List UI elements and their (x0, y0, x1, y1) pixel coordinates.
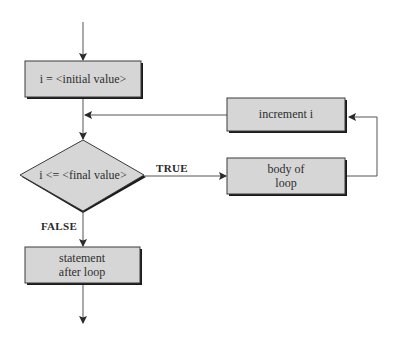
after-loop-label-line1: statement (59, 251, 106, 265)
body-to-increment-arrow (347, 117, 377, 176)
flowchart: i = <initial value> i <= <final value> T… (0, 0, 395, 341)
body-label-line1: body of (268, 162, 305, 176)
increment-box: increment i (227, 98, 347, 133)
after-loop-label-line2: after loop (59, 265, 105, 279)
after-loop-box: statement after loop (25, 247, 142, 285)
init-box-label: i = <initial value> (40, 72, 127, 86)
condition-label: i <= <final value> (39, 168, 127, 182)
body-box: body of loop (227, 158, 347, 196)
body-label-line2: loop (275, 176, 296, 190)
false-label: FALSE (41, 220, 77, 232)
increment-label: increment i (259, 107, 314, 121)
condition-diamond: i <= <final value> (20, 140, 146, 213)
true-label: TRUE (156, 162, 188, 174)
init-box: i = <initial value> (25, 61, 143, 99)
